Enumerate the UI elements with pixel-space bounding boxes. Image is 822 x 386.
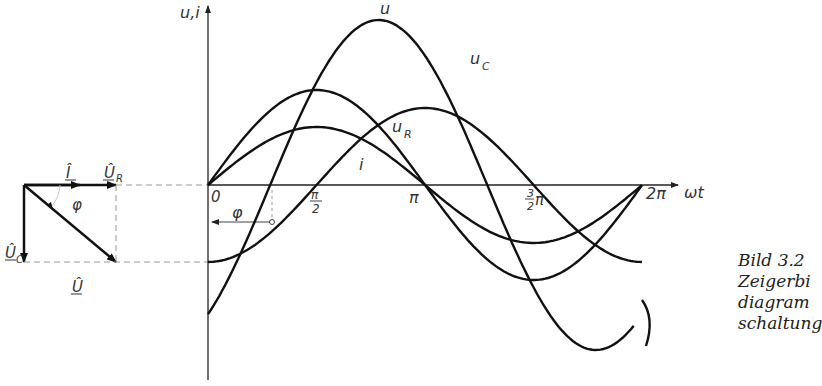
- phasor-u-arrow: [24, 185, 116, 262]
- caption-line-2: Zeigerbi: [738, 271, 822, 292]
- phi-marker: [270, 220, 275, 225]
- y-axis-label: u,i: [180, 3, 200, 22]
- phi-arc: [51, 185, 60, 207]
- origin-label: 0: [211, 188, 221, 206]
- tick-3pi2-num: 3: [527, 187, 534, 200]
- phasor-ur-label: Û: [104, 163, 115, 182]
- label-ur-sub: R: [404, 128, 412, 141]
- caption-line-4: schaltung: [738, 313, 822, 334]
- phasor-diagram: Î Û R φ Û Û C: [5, 163, 208, 296]
- figure-caption: Bild 3.2 Zeigerbi diagram schaltung: [738, 250, 822, 334]
- tick-2pi: 2π: [646, 184, 666, 203]
- phasor-uc-sub: C: [16, 254, 23, 265]
- label-i: i: [359, 155, 364, 174]
- phasor-u-label: Û: [72, 277, 83, 296]
- tick-3pi2-den: 2: [527, 200, 534, 213]
- label-ur: u: [392, 117, 402, 136]
- caption-line-3: diagram: [738, 292, 822, 313]
- tick-pi: π: [409, 188, 419, 207]
- phasor-phi-label: φ: [72, 196, 82, 214]
- curve-closing-edge: [642, 300, 650, 346]
- phasor-ur-sub: R: [116, 173, 123, 184]
- tick-pi-half-den: 2: [312, 202, 320, 216]
- axes: u,i ωt 0 π 2 π 3 2 π 2π φ: [180, 3, 704, 380]
- phasor-uc-label: Û: [5, 243, 16, 262]
- caption-line-1: Bild 3.2: [738, 250, 822, 271]
- label-uc-sub: C: [482, 60, 490, 73]
- label-u: u: [380, 0, 390, 18]
- x-axis-label: ωt: [684, 183, 704, 202]
- label-uc: u: [470, 49, 480, 68]
- phi-label: φ: [232, 203, 243, 222]
- phasor-i-label: Î: [66, 163, 72, 182]
